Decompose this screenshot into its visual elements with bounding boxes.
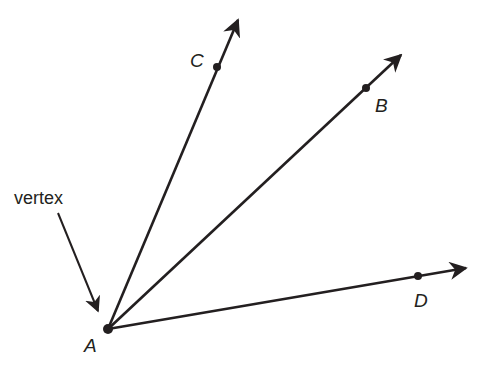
vertex-point-a bbox=[103, 324, 113, 334]
ray-ab bbox=[108, 55, 401, 329]
point-b bbox=[362, 84, 370, 92]
point-c bbox=[213, 63, 221, 71]
label-b: B bbox=[375, 95, 388, 116]
label-a: A bbox=[83, 335, 97, 356]
vertex-pointer-arrow bbox=[58, 213, 98, 311]
label-d: D bbox=[414, 290, 428, 311]
vertex-annotation-label: vertex bbox=[14, 188, 63, 208]
angle-diagram: A C B D vertex bbox=[0, 0, 492, 376]
point-d bbox=[414, 272, 422, 280]
label-c: C bbox=[190, 50, 204, 71]
